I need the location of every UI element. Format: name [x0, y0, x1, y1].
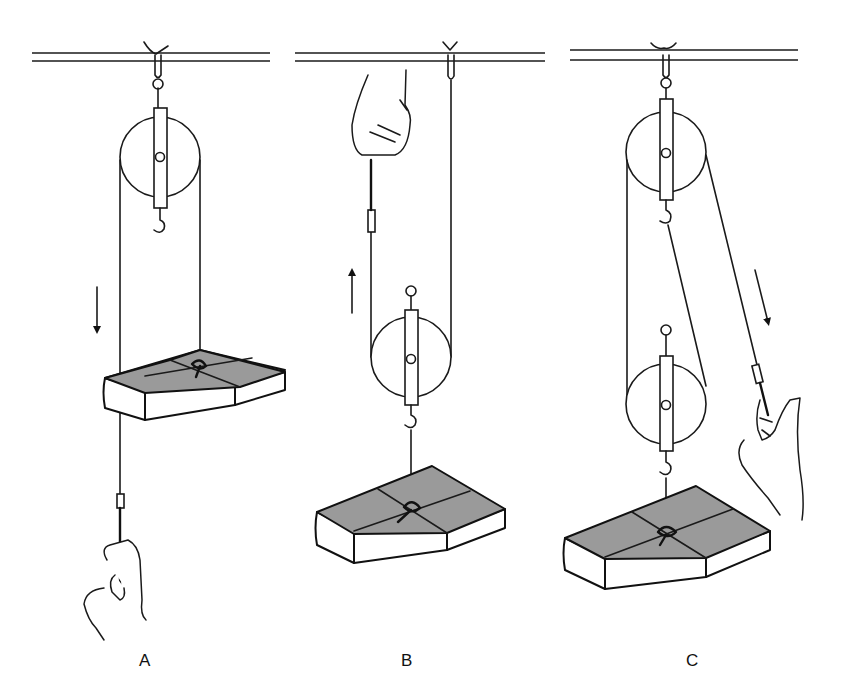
panel-c: C [564, 43, 804, 670]
panel-label-c: C [686, 651, 698, 670]
pulley-diagram: A [0, 0, 849, 700]
hand-a [84, 494, 146, 640]
book-a [104, 350, 286, 420]
panel-label-a: A [139, 651, 151, 670]
down-arrow [755, 270, 768, 322]
book-b [316, 466, 506, 563]
panel-label-b: B [401, 651, 412, 670]
ceiling-beam-a [32, 53, 270, 61]
fixed-pulley-a [120, 108, 200, 232]
ceiling-tie-icon [651, 43, 676, 100]
ceiling-beam-b [295, 53, 545, 61]
book-c [564, 486, 771, 589]
panel-a: A [32, 42, 285, 670]
movable-pulley-b [371, 286, 451, 500]
hand-b [352, 70, 410, 232]
rope-c-pull [706, 155, 757, 365]
panel-b: B [295, 42, 545, 670]
ceiling-beam-c [570, 50, 798, 60]
ceiling-tie-icon [144, 42, 168, 108]
hand-c [739, 364, 803, 520]
fixed-pulley-c [626, 99, 706, 223]
